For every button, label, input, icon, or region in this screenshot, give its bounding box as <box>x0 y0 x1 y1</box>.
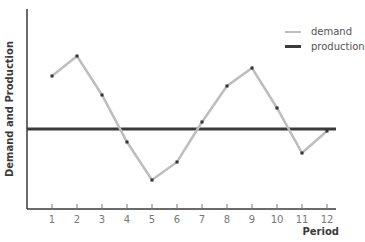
y-axis-label-text: Demand and Production <box>4 41 15 177</box>
x-tick-label: 10 <box>271 214 284 225</box>
data-point-marker <box>51 75 54 78</box>
legend: demand production <box>285 24 365 54</box>
x-tick-label: 7 <box>199 214 205 225</box>
legend-item-production: production <box>285 39 365 54</box>
x-tick-label: 9 <box>249 214 255 225</box>
data-point-marker <box>151 179 154 182</box>
x-tick-label: 11 <box>296 214 309 225</box>
data-point-marker <box>101 94 104 97</box>
x-ticks: 123456789101112 <box>49 204 334 225</box>
x-axis-label: Period <box>303 226 340 237</box>
y-axis-label: Demand and Production <box>2 9 16 209</box>
series-group <box>27 55 336 182</box>
data-point-marker <box>201 121 204 124</box>
x-tick-label: 1 <box>49 214 55 225</box>
legend-swatch-demand <box>285 31 301 33</box>
x-tick-label: 5 <box>149 214 155 225</box>
x-tick-label: 4 <box>124 214 130 225</box>
x-tick-label: 6 <box>174 214 180 225</box>
data-point-marker <box>126 141 129 144</box>
data-point-marker <box>276 107 279 110</box>
data-point-marker <box>301 152 304 155</box>
legend-label-demand: demand <box>311 26 352 37</box>
legend-item-demand: demand <box>285 24 365 39</box>
x-tick-label: 2 <box>74 214 80 225</box>
x-tick-label: 3 <box>99 214 105 225</box>
data-point-marker <box>76 55 79 58</box>
demand-line <box>52 56 327 180</box>
series-demand <box>51 55 329 182</box>
x-tick-label: 12 <box>321 214 334 225</box>
data-point-marker <box>176 161 179 164</box>
legend-swatch-production <box>285 45 301 48</box>
x-tick-label: 8 <box>224 214 230 225</box>
legend-label-production: production <box>311 41 365 52</box>
data-point-marker <box>251 67 254 70</box>
data-point-marker <box>326 130 329 133</box>
data-point-marker <box>226 85 229 88</box>
